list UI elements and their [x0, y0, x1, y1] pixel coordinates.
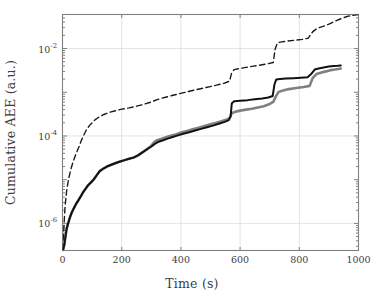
x-tick-label: 800 — [290, 254, 308, 265]
x-tick-label: 1000 — [346, 254, 370, 265]
series-dashed-curve — [63, 15, 358, 249]
cumulative-aee-chart — [0, 0, 384, 304]
plot-frame — [63, 15, 359, 251]
gridlines-group — [63, 15, 359, 251]
y-tick-label: 10-4 — [38, 130, 57, 141]
axes-frame — [63, 15, 359, 251]
y-axis-title-wrap: Cumulative AEE (a.u.) — [0, 0, 22, 264]
y-tick-label: 10-6 — [38, 218, 57, 229]
y-axis-title: Cumulative AEE (a.u.) — [4, 59, 19, 204]
tick-marks-group — [63, 15, 359, 251]
x-axis-title: Time (s) — [0, 276, 384, 291]
figure-container: Cumulative AEE (a.u.) Time (s) 020040060… — [0, 0, 384, 304]
x-tick-label: 600 — [231, 254, 249, 265]
y-tick-label: 10-2 — [38, 43, 57, 54]
x-tick-label: 0 — [59, 254, 65, 265]
x-tick-label: 400 — [172, 254, 190, 265]
data-series-group — [63, 15, 358, 250]
x-tick-label: 200 — [113, 254, 131, 265]
